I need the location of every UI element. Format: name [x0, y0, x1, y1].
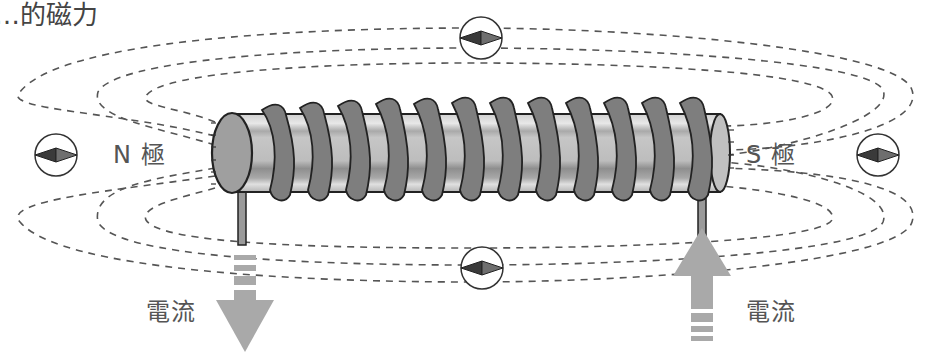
compass-top: [460, 17, 502, 59]
current-arrow-up: [673, 228, 731, 341]
electromagnet-diagram: …的磁力: [0, 0, 932, 359]
compass-bottom: [461, 247, 503, 289]
current-label-left: 電流: [146, 300, 196, 324]
compass-left: [35, 134, 77, 176]
south-pole-label: S 極: [746, 143, 796, 167]
north-pole-label: N 極: [113, 143, 166, 167]
compass-right: [857, 134, 899, 176]
current-arrow-down: [216, 255, 274, 352]
current-label-right: 電流: [746, 300, 796, 324]
left-lead-wire: [238, 185, 246, 245]
